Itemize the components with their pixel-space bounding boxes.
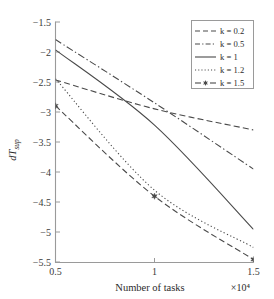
y-axis-ticks — [56, 22, 61, 262]
legend-label-k-1-2: k = 1.2 — [220, 65, 244, 75]
y-axis-title-sub: sup — [12, 139, 21, 150]
y-tick-label: −5 — [40, 227, 51, 238]
x-axis-exponent-text: ×10⁴ — [231, 282, 251, 293]
legend: k = 0.2 k = 0.5 k = 1 k = 1.2 — [192, 21, 254, 89]
x-axis-exponent: ×10⁴ — [231, 282, 251, 293]
series-line-k-1-2 — [56, 79, 254, 248]
data-point-marker — [251, 256, 256, 262]
y-tick-label: −4 — [40, 167, 51, 178]
y-tick-label: −3 — [40, 107, 51, 118]
legend-label-k-1-5: k = 1.5 — [220, 78, 244, 88]
legend-label-k-1: k = 1 — [220, 52, 238, 62]
svg-text:dTsup: dTsup — [7, 139, 21, 161]
line-chart: −1.5 −2 −2.5 −3 −3.5 −4 −4.5 −5 −5.5 0.5… — [0, 0, 274, 299]
y-tick-label: −3.5 — [33, 137, 51, 148]
x-axis-tick-labels: 0.5 1 1.5 — [49, 266, 260, 277]
legend-label-k-0-5: k = 0.5 — [220, 39, 244, 49]
x-tick-label: 1 — [152, 266, 157, 277]
x-axis-title: Number of tasks — [115, 282, 184, 293]
y-axis-title: dTsup — [7, 139, 21, 161]
x-tick-label: 0.5 — [49, 266, 62, 277]
series-markers-k-1-5 — [53, 103, 256, 263]
y-tick-label: −2.5 — [33, 77, 51, 88]
y-tick-label: −4.5 — [33, 197, 51, 208]
y-tick-label: −2 — [40, 47, 51, 58]
x-axis-ticks — [56, 258, 254, 263]
figure-container: −1.5 −2 −2.5 −3 −3.5 −4 −4.5 −5 −5.5 0.5… — [0, 0, 274, 299]
x-tick-label: 1.5 — [247, 266, 260, 277]
series-line-k-1-5 — [56, 106, 254, 260]
data-point-marker — [152, 193, 157, 199]
x-axis-title-text: Number of tasks — [115, 282, 184, 293]
y-tick-label: −1.5 — [33, 17, 51, 28]
legend-label-k-0-2: k = 0.2 — [220, 26, 244, 36]
y-axis-tick-labels: −1.5 −2 −2.5 −3 −3.5 −4 −4.5 −5 −5.5 — [33, 17, 51, 268]
